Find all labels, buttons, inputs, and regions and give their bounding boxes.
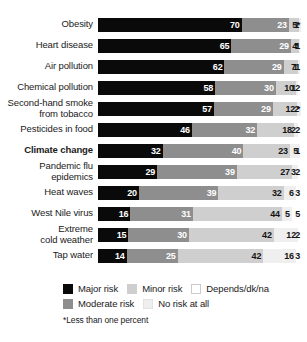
- segment-value: 57: [202, 104, 214, 114]
- bar-segment-moderate: 25: [127, 249, 178, 263]
- segment-value: 32: [272, 188, 284, 198]
- bar-segment-major: 32: [98, 144, 163, 158]
- bar-segment-major: 62: [98, 60, 224, 74]
- stacked-bar: 20393263: [98, 186, 302, 200]
- segment-value: 44: [270, 209, 282, 219]
- legend-row: Major riskMinor riskDepends/dk/na: [63, 281, 307, 296]
- chart-row: Chemical pollution58301012: [0, 77, 307, 98]
- segment-value: 20: [127, 188, 139, 198]
- segment-value: 29: [279, 41, 291, 51]
- chart-row: Extreme cold weather153042122: [0, 224, 307, 245]
- chart-row: Obesity702351*: [0, 14, 307, 35]
- bar-segment-depends: 1: [300, 39, 302, 53]
- segment-value: 23: [277, 20, 289, 30]
- legend-label: No risk at all: [158, 298, 209, 309]
- bar-segment-moderate: 23: [242, 18, 289, 32]
- segment-value: 31: [181, 209, 193, 219]
- bar-segment-moderate: 30: [128, 228, 189, 242]
- legend-item-norisk[interactable]: No risk at all: [143, 298, 209, 309]
- legend-item-moderate[interactable]: Moderate risk: [63, 298, 134, 309]
- segment-value: 39: [207, 188, 219, 198]
- bar-segment-moderate: 32: [192, 123, 257, 137]
- segment-value: 42: [252, 251, 264, 261]
- chart-row: Tap water142542163: [0, 245, 307, 266]
- stacked-bar: 5729122*: [98, 102, 302, 116]
- segment-value: 3: [295, 188, 302, 198]
- segment-value: 27: [280, 167, 292, 177]
- chart-row: Pandemic flu epidemics29392732: [0, 161, 307, 182]
- segment-value: 2: [295, 125, 302, 135]
- legend-item-major[interactable]: Major risk: [63, 283, 118, 294]
- bar-segment-moderate: 29: [231, 39, 291, 53]
- bar-segment-depends: *: [301, 18, 302, 32]
- row-label: Extreme cold weather: [0, 224, 98, 244]
- bar-segment-moderate: 39: [157, 165, 237, 179]
- bar-segment-moderate: 31: [130, 207, 193, 221]
- stacked-bar: 58301012: [98, 81, 302, 95]
- bar-segment-norisk: 6: [284, 186, 296, 200]
- bar-segment-major: 46: [98, 123, 192, 137]
- bar-segment-norisk: 5: [282, 207, 292, 221]
- segment-value: 2: [295, 83, 302, 93]
- segment-value: 70: [230, 20, 242, 30]
- bar-segment-major: 70: [98, 18, 242, 32]
- bar-segment-depends: 5: [292, 207, 302, 221]
- bar-segment-depends: 3: [296, 186, 302, 200]
- bar-segment-depends: 1: [300, 60, 302, 74]
- segment-value: 62: [213, 62, 225, 72]
- stacked-bar: 29392732: [98, 165, 302, 179]
- segment-value: 2: [295, 230, 302, 240]
- bar-segment-minor: 23: [243, 144, 289, 158]
- bar-segment-minor: 32: [218, 186, 283, 200]
- row-label: West Nile virus: [0, 208, 98, 218]
- segment-value: 1: [295, 41, 302, 51]
- legend-swatch-norisk: [143, 299, 153, 309]
- legend-item-depends[interactable]: Depends/dk/na: [191, 283, 269, 294]
- legend-swatch-moderate: [63, 299, 73, 309]
- chart-row: Heart disease65294*1: [0, 35, 307, 56]
- bar-segment-major: 16: [98, 207, 130, 221]
- chart-row: Pesticides in food46321822: [0, 119, 307, 140]
- segment-value: 42: [262, 230, 274, 240]
- bar-segment-minor: 18: [257, 123, 294, 137]
- bar-segment-moderate: 29: [214, 102, 273, 116]
- chart-row: Climate change32402351: [0, 140, 307, 161]
- chart-row: Second-hand smoke from tobacco5729122*: [0, 98, 307, 119]
- segment-value: 30: [177, 230, 189, 240]
- legend-swatch-minor: [127, 284, 137, 294]
- legend-label: Major risk: [78, 283, 118, 294]
- bar-segment-moderate: 30: [215, 81, 276, 95]
- segment-value: 1: [295, 146, 302, 156]
- row-label: Obesity: [0, 19, 98, 29]
- row-label: Heart disease: [0, 40, 98, 50]
- stacked-bar: 153042122: [98, 228, 302, 242]
- legend-row: Moderate riskNo risk at all: [63, 296, 307, 311]
- bar-segment-major: 15: [98, 228, 128, 242]
- stacked-bar: 16314455: [98, 207, 302, 221]
- stacked-bar: 702351*: [98, 18, 302, 32]
- bar-segment-minor: 42: [178, 249, 264, 263]
- stacked-bar: 6229711: [98, 60, 302, 74]
- stacked-bar: 46321822: [98, 123, 302, 137]
- row-label: Pesticides in food: [0, 124, 98, 134]
- stacked-bar-chart: Obesity702351*Heart disease65294*1Air po…: [0, 0, 307, 342]
- bar-segment-moderate: 40: [163, 144, 244, 158]
- bar-segment-depends: *: [301, 102, 302, 116]
- bar-segment-moderate: 39: [139, 186, 219, 200]
- segment-value: 16: [119, 209, 131, 219]
- bar-segment-depends: 2: [298, 165, 302, 179]
- bar-segment-depends: 2: [298, 81, 302, 95]
- bar-segment-moderate: 29: [224, 60, 283, 74]
- bar-segment-major: 57: [98, 102, 214, 116]
- row-label: Climate change: [0, 145, 98, 155]
- segment-value: 29: [261, 104, 273, 114]
- legend-item-minor[interactable]: Minor risk: [127, 283, 182, 294]
- bar-segment-major: 29: [98, 165, 157, 179]
- segment-value: 25: [166, 251, 178, 261]
- chart-row: Heat waves20393263: [0, 182, 307, 203]
- segment-value: 16: [284, 251, 296, 261]
- row-label: Chemical pollution: [0, 82, 98, 92]
- bar-segment-minor: 44: [193, 207, 282, 221]
- bar-segment-major: 14: [98, 249, 127, 263]
- segment-value: 32: [245, 125, 257, 135]
